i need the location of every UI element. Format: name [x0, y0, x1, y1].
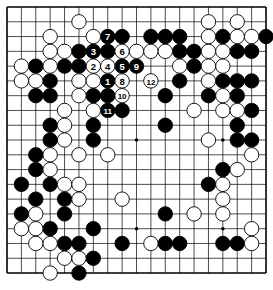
black-stone — [43, 88, 57, 102]
white-stone — [230, 15, 244, 29]
black-stone: 5 — [115, 59, 129, 73]
white-stone — [72, 15, 86, 29]
white-stone — [201, 44, 215, 58]
white-stone — [57, 133, 71, 147]
black-stone — [216, 29, 230, 43]
move-number-label: 8 — [119, 76, 124, 87]
white-stone — [244, 148, 258, 162]
white-stone — [14, 59, 28, 73]
white-stone — [201, 59, 215, 73]
white-stone: 8 — [115, 74, 129, 88]
black-stone — [230, 133, 244, 147]
white-stone — [201, 29, 215, 43]
black-stone — [43, 177, 57, 191]
black-stone — [115, 236, 129, 250]
star-point — [221, 227, 225, 231]
move-number-label: 9 — [134, 61, 139, 72]
black-stone — [101, 88, 115, 102]
white-stone — [230, 29, 244, 43]
star-point — [221, 138, 225, 142]
black-stone: 9 — [129, 59, 143, 73]
white-stone — [29, 207, 43, 221]
white-stone — [244, 236, 258, 250]
star-point — [135, 227, 139, 231]
white-stone — [72, 251, 86, 265]
white-stone — [187, 103, 201, 117]
black-stone — [201, 177, 215, 191]
black-stone — [201, 88, 215, 102]
black-stone — [72, 59, 86, 73]
move-number-label: 4 — [105, 61, 111, 72]
black-stone — [57, 236, 71, 250]
move-number-label: 10 — [118, 92, 127, 101]
black-stone — [158, 88, 172, 102]
white-stone — [43, 236, 57, 250]
black-stone — [29, 148, 43, 162]
black-stone — [43, 118, 57, 132]
white-stone — [72, 74, 86, 88]
black-stone — [187, 59, 201, 73]
white-stone — [158, 44, 172, 58]
black-stone — [216, 162, 230, 176]
move-number-label: 3 — [91, 46, 96, 57]
black-stone — [244, 103, 258, 117]
black-stone — [230, 88, 244, 102]
black-stone — [230, 44, 244, 58]
white-stone — [43, 29, 57, 43]
black-stone — [14, 177, 28, 191]
move-number-label: 1 — [105, 76, 111, 87]
white-stone — [14, 74, 28, 88]
white-stone — [201, 133, 215, 147]
black-stone — [172, 74, 186, 88]
white-stone — [230, 103, 244, 117]
black-stone — [230, 118, 244, 132]
black-stone — [86, 133, 100, 147]
black-stone — [172, 44, 186, 58]
black-stone — [158, 29, 172, 43]
white-stone — [216, 207, 230, 221]
star-point — [135, 138, 139, 142]
white-stone — [14, 222, 28, 236]
white-stone — [230, 162, 244, 176]
black-stone — [144, 29, 158, 43]
white-stone — [216, 44, 230, 58]
white-stone — [86, 29, 100, 43]
black-stone — [43, 74, 57, 88]
white-stone — [57, 177, 71, 191]
move-number-label: 12 — [146, 78, 155, 87]
white-stone — [115, 192, 129, 206]
white-stone — [43, 59, 57, 73]
black-stone — [72, 266, 86, 280]
black-stone — [29, 162, 43, 176]
move-number-label: 7 — [105, 31, 110, 42]
white-stone — [72, 148, 86, 162]
white-stone — [144, 236, 158, 250]
black-stone — [158, 207, 172, 221]
black-stone — [86, 251, 100, 265]
white-stone: 12 — [144, 74, 158, 88]
white-stone — [86, 103, 100, 117]
go-board-diagram: 735911162481210 — [0, 0, 273, 290]
black-stone — [216, 74, 230, 88]
white-stone — [244, 29, 258, 43]
black-stone: 1 — [101, 74, 115, 88]
stones-layer: 735911162481210 — [14, 15, 273, 281]
black-stone — [187, 44, 201, 58]
black-stone — [29, 192, 43, 206]
white-stone — [72, 177, 86, 191]
white-stone — [172, 59, 186, 73]
black-stone — [158, 236, 172, 250]
white-stone: 2 — [86, 59, 100, 73]
white-stone — [187, 207, 201, 221]
white-stone — [86, 74, 100, 88]
black-stone — [72, 44, 86, 58]
white-stone: 4 — [101, 59, 115, 73]
white-stone — [43, 148, 57, 162]
black-stone — [172, 29, 186, 43]
black-stone — [57, 59, 71, 73]
white-stone — [201, 74, 215, 88]
white-stone — [43, 44, 57, 58]
black-stone — [29, 59, 43, 73]
black-stone: 7 — [101, 29, 115, 43]
black-stone — [29, 88, 43, 102]
